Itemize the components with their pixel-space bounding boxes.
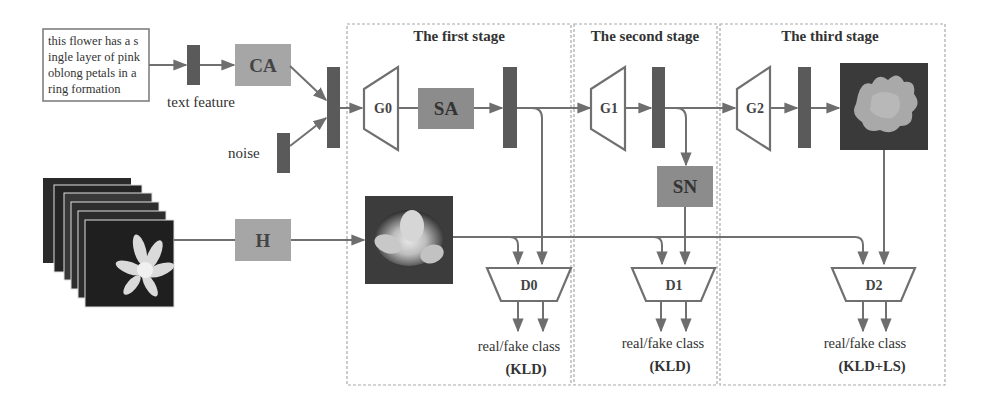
d2-loss-label: (KLD+LS) (838, 358, 905, 375)
d1-loss-label: (KLD) (649, 358, 690, 375)
concat-bar (327, 67, 340, 148)
stage-2-title: The second stage (591, 28, 700, 44)
stage-1-title: The first stage (413, 28, 505, 44)
generated-flower-image (840, 63, 928, 150)
ca-label: CA (249, 55, 277, 76)
text-feature-label: text feature (167, 94, 235, 110)
real-flower-image (365, 196, 453, 284)
sn-label: SN (673, 176, 698, 197)
stage-2-feature-bar (652, 67, 665, 148)
real-image-stack (43, 178, 176, 307)
noise-bar (277, 133, 290, 173)
h-label: H (256, 230, 271, 251)
g0-label: G0 (374, 101, 392, 116)
d2-label: D2 (865, 278, 882, 293)
d0-loss-label: (KLD) (505, 361, 546, 378)
d0-label: D0 (520, 278, 537, 293)
stage-1-feature-bar (503, 67, 517, 148)
noise-label: noise (228, 145, 260, 161)
d0-output-label: real/fake class (478, 338, 561, 354)
stage-3-feature-bar (798, 67, 811, 148)
d1-output-label: real/fake class (622, 335, 705, 351)
input-text-line-2: ingle layer of pink (48, 50, 141, 64)
g2-label: G2 (746, 101, 764, 116)
input-text-line-1: this flower has a s (48, 34, 138, 48)
input-text-line-3: oblong petals in a (48, 66, 137, 80)
network-diagram: The first stage The second stage The thi… (0, 0, 982, 402)
stage-3-title: The third stage (781, 28, 879, 44)
input-text-box: this flower has a s ingle layer of pink … (43, 29, 149, 101)
sa-label: SA (434, 98, 459, 119)
d1-label: D1 (665, 278, 682, 293)
d2-output-label: real/fake class (824, 335, 907, 351)
input-text-line-4: ring formation (48, 82, 121, 96)
g1-label: G1 (600, 101, 618, 116)
text-feature-bar (187, 45, 200, 85)
